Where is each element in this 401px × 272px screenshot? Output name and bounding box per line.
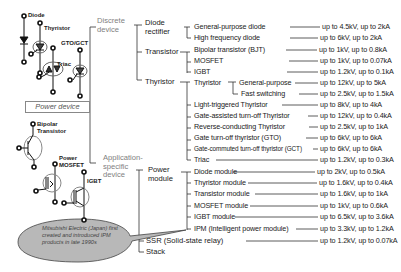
- item-general-purpose-diode: General-purpose diode: [194, 23, 265, 31]
- item-fast-switching-thyristor: Fast switching: [241, 90, 285, 98]
- item-ipm: IPM (Intelligent power module): [194, 225, 288, 233]
- symbol-label-gto-gct: GTO/GCT: [61, 40, 88, 47]
- rating-mosfet-module: up to 1kV, up to 0.6kA: [320, 202, 388, 210]
- category-power-module: Power module: [148, 166, 173, 183]
- discrete-line2: device: [97, 26, 125, 35]
- item-high-frequency-diode: High frequency diode: [194, 34, 260, 42]
- item-general-purpose-thyristor: General-purpose: [239, 79, 291, 87]
- item-diode-module: Diode module: [194, 168, 237, 176]
- rating-gto: up to 6kV, up to 6kA: [320, 134, 382, 142]
- item-triac: Triac: [194, 156, 209, 164]
- rating-fast-switching-thyristor: up to 2.5kV, up to 1.5kA: [320, 90, 394, 98]
- item-bjt: Bipolar transistor (BJT): [194, 46, 265, 54]
- rating-gct: up to 6kV, up to 6kA: [320, 145, 382, 153]
- category-diode-rectifier: Diode rectifier: [145, 19, 170, 36]
- item-gct: Gate-commuted turn-off thyristor (GCT): [194, 145, 302, 153]
- item-transistor-module: Transistor module: [194, 190, 250, 198]
- rating-general-purpose-thyristor: up to 12kV, up to 5kA: [320, 79, 386, 87]
- power-module-line2: module: [148, 175, 173, 184]
- power-mosfet-line2: MOSFET: [59, 162, 84, 169]
- rating-light-triggered-thyristor: up to 8kV, up to 4kA: [320, 101, 382, 109]
- power-device-root: Power device: [25, 101, 90, 113]
- symbol-label-diode: Diode: [28, 12, 45, 19]
- rating-diode-module: up to 2kV, up to 0.5kA: [317, 168, 385, 176]
- branch-discrete-device: Discrete device: [97, 17, 125, 34]
- category-stack: Stack: [146, 248, 165, 257]
- item-thyristor: Thyristor: [194, 79, 221, 87]
- app-line3: device: [103, 171, 143, 180]
- rating-ssr: up to 1.2kV, up to 0.07kA: [320, 237, 398, 245]
- symbol-label-bipolar-transistor: Bipolar Transistor: [37, 121, 66, 134]
- item-mosfet: MOSFET: [194, 57, 223, 65]
- item-gto: Gate turn-off thyristor (GTO): [194, 134, 281, 142]
- rating-general-purpose-diode: up to 4.5kV, up to 2kA: [322, 23, 390, 31]
- rating-reverse-conducting-thyristor: up to 2.5kV, up to 1kA: [320, 123, 388, 131]
- rating-mosfet: up to 1kV, up to 0.07kA: [320, 57, 392, 65]
- rating-transistor-module: up to 1.6kV, up to 1kA: [320, 190, 388, 198]
- symbol-label-igbt: IGBT: [87, 178, 101, 185]
- category-thyristor: Thyristor: [145, 78, 175, 87]
- rating-bjt: up to 1kV, up to 0.8kA: [319, 46, 387, 54]
- bipolar-line2: Transistor: [37, 128, 66, 135]
- rating-thyristor-module: up to 1.6kV, up to 0.4kA: [319, 179, 393, 187]
- item-igbt-module: IGBT module: [194, 213, 235, 221]
- item-igbt: IGBT: [194, 68, 210, 76]
- rating-igbt: up to 1.2kV, up to 0.1kA: [320, 68, 394, 76]
- branch-application-specific-device: Application- specific device: [103, 154, 143, 180]
- rating-igbt-module: up to 6.5kV, up to 3.6kA: [320, 213, 394, 221]
- rating-high-frequency-diode: up to 6kV, up to 2kA: [320, 34, 382, 42]
- symbol-label-power-mosfet: Power MOSFET: [59, 155, 84, 168]
- rating-triac: up to 1.2kV, up to 0.3kA: [320, 156, 394, 164]
- item-light-triggered-thyristor: Light-triggered Thyristor: [194, 101, 268, 109]
- item-gate-assisted-thyristor: Gate-assisted turn-off Thyristor: [194, 112, 290, 120]
- item-thyristor-module: Thyristor module: [194, 179, 246, 187]
- symbol-label-thyristor: Thyristor: [44, 25, 70, 32]
- item-reverse-conducting-thyristor: Reverse-conducting Thyristor: [194, 123, 285, 131]
- item-mosfet-module: MOSFET module: [194, 202, 248, 210]
- category-ssr: SSR (Solid-state relay): [146, 237, 223, 246]
- symbol-label-triac: Triac: [57, 61, 71, 68]
- callout-text: Mitsubishi Electric (Japan) first create…: [42, 225, 128, 245]
- rating-ipm: up to 3.3kV, up to 1.2kA: [320, 225, 394, 233]
- diode-rectifier-line2: rectifier: [145, 28, 170, 37]
- rating-gate-assisted-thyristor: up to 12kV, up to 0.4kA: [320, 112, 392, 120]
- category-transistor: Transistor: [145, 48, 178, 57]
